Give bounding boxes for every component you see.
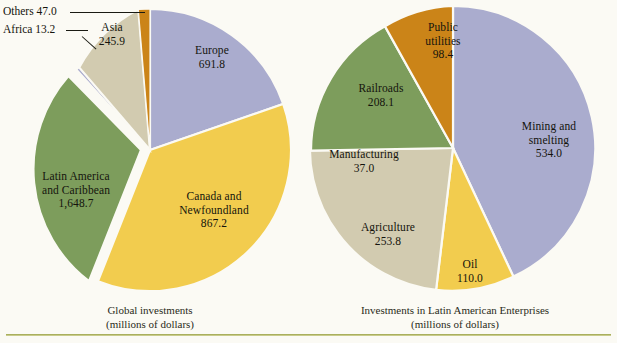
caption-left-chart: Global investments (millions of dollars) — [60, 304, 240, 331]
label-europe-name: Europe — [195, 44, 229, 56]
label-manufacturing: Manufacturing 37.0 — [313, 148, 415, 175]
label-oil-value: 110.0 — [445, 272, 495, 286]
leader-line-africa — [66, 30, 88, 31]
label-oil-name: Oil — [463, 258, 478, 270]
label-agriculture-name: Agriculture — [361, 221, 415, 233]
label-agriculture: Agriculture 253.8 — [342, 221, 434, 248]
label-agriculture-value: 253.8 — [342, 235, 434, 249]
label-canada-name-line1: Canada and — [187, 190, 242, 202]
label-mining-name-line2: smelting — [500, 134, 598, 148]
label-latin-name-line2: and Caribbean — [16, 184, 136, 198]
caption-right-chart: Investments in Latin American Enterprise… — [330, 304, 580, 331]
label-canada-name-line2: Newfoundland — [156, 204, 272, 218]
label-latin-america: Latin America and Caribbean 1,648.7 — [16, 170, 136, 211]
callout-africa: Africa 13.2 — [3, 23, 55, 36]
caption-left-subtitle: (millions of dollars) — [60, 318, 240, 332]
label-manufacturing-value: 37.0 — [313, 162, 415, 176]
label-mining-name-line1: Mining and — [522, 120, 576, 132]
label-mining-value: 534.0 — [500, 147, 598, 161]
label-public-utilities: Public utilities 98.4 — [412, 21, 474, 62]
caption-right-title: Investments in Latin American Enterprise… — [361, 304, 549, 316]
label-utilities-name-line2: utilities — [412, 35, 474, 49]
label-railroads-value: 208.1 — [340, 96, 422, 110]
label-oil: Oil 110.0 — [445, 258, 495, 285]
label-latin-value: 1,648.7 — [16, 197, 136, 211]
label-railroads-name: Railroads — [359, 82, 404, 94]
callout-others: Others 47.0 — [3, 5, 57, 18]
label-asia-name: Asia — [101, 21, 122, 33]
label-asia: Asia 245.9 — [87, 21, 137, 48]
label-asia-value: 245.9 — [87, 35, 137, 49]
label-canada-value: 867.2 — [156, 217, 272, 231]
caption-left-title: Global investments — [107, 304, 192, 316]
label-utilities-name-line1: Public — [428, 21, 458, 33]
label-europe: Europe 691.8 — [176, 44, 248, 71]
label-utilities-value: 98.4 — [412, 48, 474, 62]
label-canada: Canada and Newfoundland 867.2 — [156, 190, 272, 231]
leader-line-others — [70, 12, 145, 13]
label-mining-and-smelting: Mining and smelting 534.0 — [500, 120, 598, 161]
bottom-rule-divider — [6, 334, 611, 336]
label-europe-value: 691.8 — [176, 58, 248, 72]
label-railroads: Railroads 208.1 — [340, 82, 422, 109]
label-latin-name-line1: Latin America — [42, 170, 109, 182]
left-pie-chart — [33, 9, 291, 291]
caption-right-subtitle: (millions of dollars) — [330, 318, 580, 332]
figure-two-pie-charts: Europe 691.8 Canada and Newfoundland 867… — [0, 0, 617, 343]
label-manufacturing-name: Manufacturing — [329, 148, 399, 160]
